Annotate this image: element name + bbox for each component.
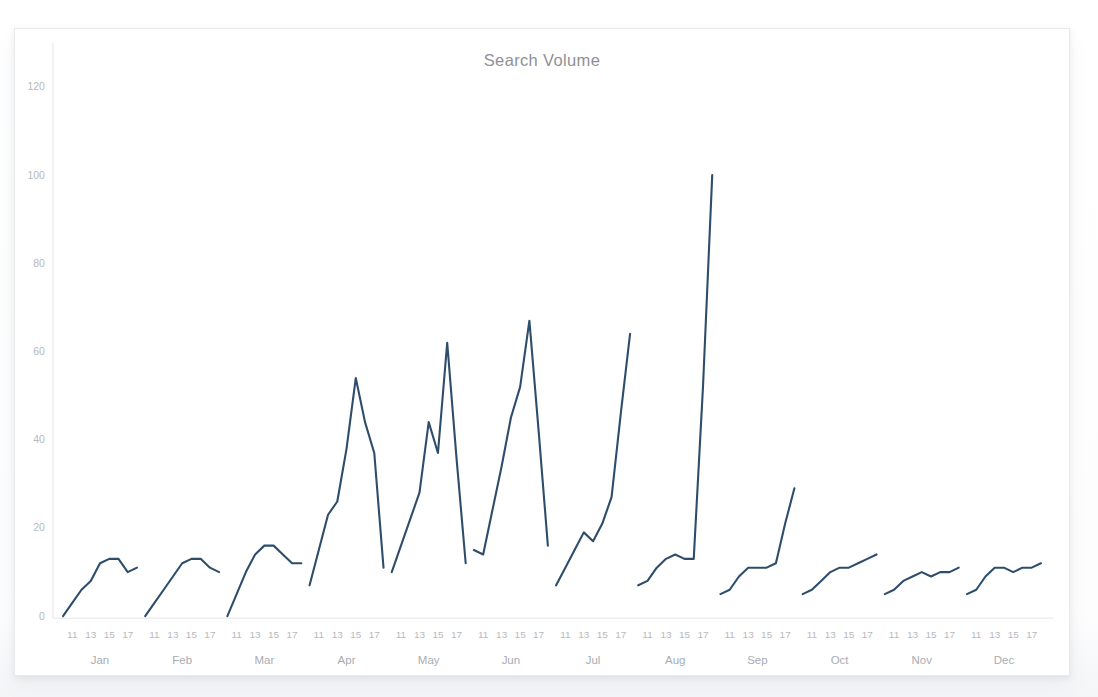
series-segment-apr xyxy=(310,378,384,585)
x-axis-day-tick-label: 11 xyxy=(478,629,489,640)
x-axis-month-label: Jan xyxy=(91,654,110,666)
x-axis-day-tick-label: 15 xyxy=(679,629,691,640)
x-axis-day-tick-label: 11 xyxy=(314,629,325,640)
series-segment-aug xyxy=(638,175,712,585)
series-segment-dec xyxy=(967,563,1041,594)
x-axis-day-tick-label: 15 xyxy=(597,629,609,640)
x-axis-day-tick-label: 13 xyxy=(660,629,672,640)
x-axis-day-tick-label: 13 xyxy=(167,629,179,640)
x-axis-day-tick-label: 17 xyxy=(369,629,381,640)
series-segment-jul xyxy=(556,334,630,585)
x-axis-day-tick-label: 15 xyxy=(925,629,937,640)
series-segment-may xyxy=(392,343,466,572)
x-axis-day-tick-label: 11 xyxy=(560,629,571,640)
x-axis-day-tick-label: 15 xyxy=(843,629,855,640)
x-axis-day-tick-label: 17 xyxy=(944,629,956,640)
x-axis-day-tick-label: 13 xyxy=(414,629,426,640)
x-axis-day-tick-label: 17 xyxy=(204,629,216,640)
x-axis-day-tick-label: 17 xyxy=(122,629,134,640)
data-series-group xyxy=(63,175,1041,616)
x-axis-day-tick-label: 11 xyxy=(231,629,242,640)
series-segment-nov xyxy=(885,568,959,594)
x-axis-day-tick-label: 15 xyxy=(761,629,773,640)
x-axis-month-label: Nov xyxy=(912,654,933,666)
x-axis-day-tick-label: 15 xyxy=(268,629,280,640)
x-axis-month-label: Dec xyxy=(994,654,1015,666)
y-axis: 020406080100120 xyxy=(27,43,52,622)
x-axis-day-tick-label: 11 xyxy=(67,629,78,640)
x-axis-day-tick-label: 15 xyxy=(104,629,116,640)
x-axis-month-label: Jul xyxy=(586,654,601,666)
x-axis-day-tick-label: 13 xyxy=(85,629,97,640)
x-axis-day-tick-label: 15 xyxy=(186,629,198,640)
x-axis-day-tick-label: 17 xyxy=(1026,629,1038,640)
x-axis-day-tick-label: 17 xyxy=(697,629,709,640)
x-axis-day-tick-label: 15 xyxy=(1008,629,1020,640)
x-axis-day-tick-label: 17 xyxy=(615,629,627,640)
x-axis-day-tick-label: 11 xyxy=(807,629,818,640)
x-axis-day-tick-label: 11 xyxy=(149,629,160,640)
search-volume-line-chart: 020406080100120 11131517Jan11131517Feb11… xyxy=(15,29,1069,675)
y-axis-tick-label: 100 xyxy=(27,170,45,181)
x-axis-day-tick-label: 13 xyxy=(907,629,919,640)
series-segment-jun xyxy=(474,321,548,555)
y-axis-tick-label: 0 xyxy=(39,611,45,622)
x-axis-month-label: Oct xyxy=(831,654,850,666)
x-axis-day-tick-label: 13 xyxy=(250,629,262,640)
x-axis-day-tick-label: 13 xyxy=(825,629,837,640)
x-axis-day-tick-label: 17 xyxy=(287,629,299,640)
x-axis-day-tick-label: 13 xyxy=(743,629,755,640)
x-axis-month-label: May xyxy=(418,654,440,666)
x-axis-day-tick-label: 11 xyxy=(889,629,900,640)
x-axis: 11131517Jan11131517Feb11131517Mar1113151… xyxy=(53,618,1053,666)
x-axis-month-label: Mar xyxy=(254,654,274,666)
x-axis-month-label: Sep xyxy=(747,654,767,666)
series-segment-feb xyxy=(145,559,219,616)
y-axis-tick-label: 60 xyxy=(33,346,45,357)
x-axis-day-tick-label: 13 xyxy=(496,629,508,640)
x-axis-day-tick-label: 11 xyxy=(642,629,653,640)
x-axis-day-tick-label: 17 xyxy=(451,629,463,640)
x-axis-day-tick-label: 15 xyxy=(432,629,444,640)
y-axis-tick-label: 20 xyxy=(33,522,45,533)
x-axis-day-tick-label: 17 xyxy=(862,629,874,640)
x-axis-month-label: Jun xyxy=(502,654,521,666)
x-axis-month-label: Apr xyxy=(338,654,356,666)
series-segment-sep xyxy=(720,488,794,594)
x-axis-day-tick-label: 11 xyxy=(725,629,736,640)
x-axis-day-tick-label: 17 xyxy=(780,629,792,640)
y-axis-tick-label: 40 xyxy=(33,434,45,445)
x-axis-day-tick-label: 11 xyxy=(971,629,982,640)
y-axis-tick-label: 80 xyxy=(33,258,45,269)
x-axis-day-tick-label: 15 xyxy=(515,629,527,640)
series-segment-oct xyxy=(803,554,877,594)
chart-card: Search Volume 020406080100120 11131517Ja… xyxy=(14,28,1070,676)
x-axis-day-tick-label: 13 xyxy=(332,629,344,640)
series-segment-mar xyxy=(227,546,301,617)
x-axis-day-tick-label: 13 xyxy=(989,629,1001,640)
series-segment-jan xyxy=(63,559,137,616)
y-axis-tick-label: 120 xyxy=(27,81,45,92)
x-axis-day-tick-label: 15 xyxy=(350,629,362,640)
x-axis-day-tick-label: 13 xyxy=(578,629,590,640)
x-axis-month-label: Feb xyxy=(172,654,192,666)
x-axis-day-tick-label: 11 xyxy=(396,629,407,640)
x-axis-day-tick-label: 17 xyxy=(533,629,545,640)
x-axis-month-label: Aug xyxy=(665,654,685,666)
